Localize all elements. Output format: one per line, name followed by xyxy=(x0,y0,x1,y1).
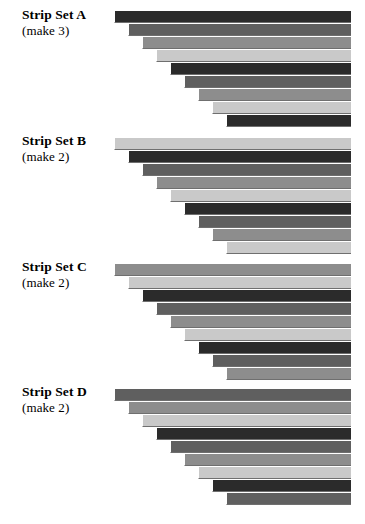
strip-c-2 xyxy=(128,276,351,289)
strip-set-d-label: Strip Set D(make 2) xyxy=(22,385,122,415)
strip-b-5 xyxy=(170,189,351,202)
strip-set-a-quantity: (make 3) xyxy=(22,24,122,38)
strip-d-7 xyxy=(198,466,351,479)
strip-d-1 xyxy=(114,388,351,401)
strip-c-1 xyxy=(114,263,351,276)
strip-c-8 xyxy=(212,354,351,367)
strip-b-4 xyxy=(156,176,351,189)
strip-set-c-title: Strip Set C xyxy=(22,260,122,275)
strip-c-6 xyxy=(184,328,351,341)
strip-d-2 xyxy=(128,401,351,414)
strip-a-3 xyxy=(142,36,351,49)
strip-a-8 xyxy=(212,101,351,114)
strip-b-9 xyxy=(226,241,351,254)
strip-d-3 xyxy=(142,414,351,427)
strip-a-7 xyxy=(198,88,351,101)
strip-set-d-title: Strip Set D xyxy=(22,385,122,400)
strip-set-a-label: Strip Set A(make 3) xyxy=(22,8,122,38)
strip-b-1 xyxy=(114,137,351,150)
strip-d-6 xyxy=(184,453,351,466)
strip-b-7 xyxy=(198,215,351,228)
strip-c-3 xyxy=(142,289,351,302)
strip-a-6 xyxy=(184,75,351,88)
strip-d-5 xyxy=(170,440,351,453)
strip-set-b-quantity: (make 2) xyxy=(22,150,122,164)
strip-d-9 xyxy=(226,492,351,505)
strip-a-1 xyxy=(114,10,351,23)
strip-d-4 xyxy=(156,427,351,440)
strip-d-8 xyxy=(212,479,351,492)
strip-b-8 xyxy=(212,228,351,241)
strip-set-diagram: Strip Set A(make 3)Strip Set B(make 2)St… xyxy=(0,0,365,524)
strip-set-a-title: Strip Set A xyxy=(22,8,122,23)
strip-b-6 xyxy=(184,202,351,215)
strip-a-2 xyxy=(128,23,351,36)
strip-set-b-title: Strip Set B xyxy=(22,134,122,149)
strip-b-2 xyxy=(128,150,351,163)
strip-c-9 xyxy=(226,367,351,380)
strip-c-7 xyxy=(198,341,351,354)
strip-set-c-quantity: (make 2) xyxy=(22,276,122,290)
strip-set-b-label: Strip Set B(make 2) xyxy=(22,134,122,164)
strip-a-5 xyxy=(170,62,351,75)
strip-set-d-quantity: (make 2) xyxy=(22,401,122,415)
strip-b-3 xyxy=(142,163,351,176)
strip-c-5 xyxy=(170,315,351,328)
strip-set-c-label: Strip Set C(make 2) xyxy=(22,260,122,290)
strip-c-4 xyxy=(156,302,351,315)
strip-a-9 xyxy=(226,114,351,127)
strip-a-4 xyxy=(156,49,351,62)
